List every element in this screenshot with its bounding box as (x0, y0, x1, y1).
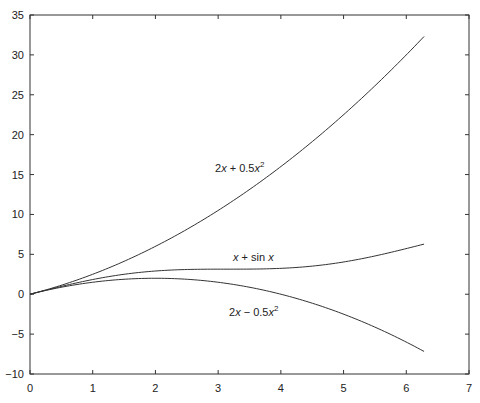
x-tick-label: 6 (403, 382, 409, 394)
y-tick-label: 35 (12, 9, 24, 21)
annotation-quadratic-minus: 2x − 0.5x2 (229, 304, 279, 318)
x-tick-label: 3 (215, 382, 221, 394)
x-tick-label: 5 (341, 382, 347, 394)
y-tick-label: 10 (12, 208, 24, 220)
plot-frame (30, 15, 469, 374)
curves (30, 36, 424, 351)
y-tick-label: −10 (5, 368, 24, 380)
y-tick-label: 0 (18, 288, 24, 300)
y-tick-label: 25 (12, 89, 24, 101)
y-tick-label: 5 (18, 248, 24, 260)
y-tick-label: 20 (12, 129, 24, 141)
x-tick-labels: 01234567 (27, 382, 472, 394)
y-tick-labels: −10−505101520253035 (5, 9, 24, 380)
x-tick-label: 1 (90, 382, 96, 394)
y-tick-label: 15 (12, 169, 24, 181)
x-tick-label: 2 (152, 382, 158, 394)
annotation-quadratic-plus: 2x + 0.5x2 (215, 160, 265, 174)
axis-ticks (30, 15, 469, 374)
curve-1 (30, 244, 424, 294)
x-tick-label: 7 (466, 382, 472, 394)
x-tick-label: 4 (278, 382, 284, 394)
line-chart: 01234567 −10−505101520253035 2x + 0.5x2 … (0, 0, 480, 403)
x-tick-label: 0 (27, 382, 33, 394)
curve-2 (30, 278, 424, 351)
y-tick-label: −5 (11, 328, 24, 340)
y-tick-label: 30 (12, 49, 24, 61)
annotation-x-plus-sin: x + sin x (232, 251, 274, 263)
